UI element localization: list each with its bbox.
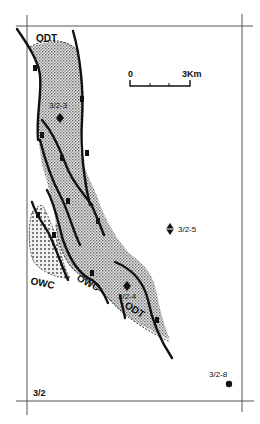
well-label: 3/2-8: [209, 370, 228, 379]
scale-end-label: 3Km: [182, 69, 202, 79]
well-label: 3/2-5: [178, 225, 197, 234]
block-label: 3/2: [33, 388, 46, 398]
owc-left-label: OWC: [30, 275, 56, 291]
scale-start-label: 0: [128, 69, 133, 79]
well-label: 3/2-3: [49, 101, 68, 110]
well-3-2-5[interactable]: 3/2-5: [164, 223, 197, 235]
scale-bar: 0 3Km: [128, 69, 202, 86]
well-label: 3/2-4: [118, 292, 137, 301]
well-icon: [226, 381, 232, 387]
odt-top-label: ODT: [36, 33, 57, 44]
dry-well-shows-icon: [164, 223, 176, 235]
field-map: 0 3Km ODT OWC OWC ODT 3/2-3 3/2-4 3/2-5 …: [0, 0, 260, 424]
well-3-2-8[interactable]: 3/2-8: [209, 370, 232, 387]
